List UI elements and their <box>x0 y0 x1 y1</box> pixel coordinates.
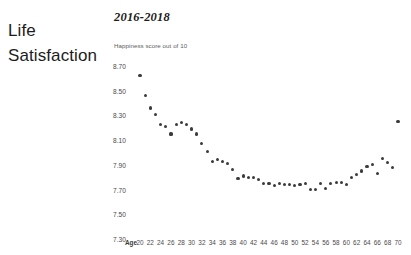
data-point <box>190 127 193 130</box>
x-axis-tick: 46 <box>271 239 278 246</box>
chart-title: 2016-2018 <box>114 10 170 25</box>
data-point <box>242 174 245 177</box>
data-point <box>211 160 214 163</box>
y-axis-label: Happiness score out of 10 <box>114 42 187 49</box>
data-point <box>144 94 147 97</box>
data-point <box>371 163 374 166</box>
data-point <box>283 183 286 186</box>
data-point <box>314 188 317 191</box>
chart-container: 2016-2018 Happiness score out of 10 8.70… <box>113 5 409 253</box>
data-point <box>169 132 172 135</box>
x-axis-label: Age <box>125 239 137 246</box>
plot-area: 8.708.508.308.107.907.707.507.30 <box>113 49 409 235</box>
data-point <box>396 120 399 123</box>
x-axis-tick: 68 <box>384 239 391 246</box>
x-axis-tick: 64 <box>363 239 370 246</box>
data-point <box>309 188 312 191</box>
data-point <box>391 166 394 169</box>
data-point <box>247 176 250 179</box>
chart-page: Life Satisfaction 2016-2018 Happiness sc… <box>0 0 411 255</box>
x-axis-tick: 52 <box>302 239 309 246</box>
x-axis-tick: 56 <box>322 239 329 246</box>
data-point <box>324 187 327 190</box>
data-point <box>273 184 276 187</box>
data-point <box>267 182 270 185</box>
data-point <box>257 178 260 181</box>
data-point <box>195 132 198 135</box>
x-axis-tick: 62 <box>353 239 360 246</box>
data-point <box>206 150 209 153</box>
data-point <box>216 158 219 161</box>
data-point <box>185 123 188 126</box>
x-axis: Age 202224262830323436384042444648505254… <box>113 239 409 251</box>
x-axis-tick: 20 <box>136 239 143 246</box>
data-point <box>262 182 265 185</box>
scatter-points-layer <box>113 49 409 235</box>
x-axis-tick: 36 <box>219 239 226 246</box>
data-point <box>252 176 255 179</box>
data-point <box>304 182 307 185</box>
data-point <box>159 123 162 126</box>
data-point <box>180 121 183 124</box>
x-axis-tick: 24 <box>157 239 164 246</box>
data-point <box>149 106 152 109</box>
data-point <box>376 172 379 175</box>
data-point <box>360 169 363 172</box>
data-point <box>138 74 141 77</box>
x-axis-tick: 30 <box>188 239 195 246</box>
x-axis-tick: 26 <box>167 239 174 246</box>
x-axis-tick: 22 <box>147 239 154 246</box>
data-point <box>278 182 281 185</box>
x-axis-tick: 48 <box>281 239 288 246</box>
data-point <box>355 173 358 176</box>
page-title: Life Satisfaction <box>8 18 108 68</box>
data-point <box>335 181 338 184</box>
data-point <box>386 161 389 164</box>
x-axis-tick: 54 <box>312 239 319 246</box>
x-axis-tick: 50 <box>291 239 298 246</box>
x-axis-tick: 44 <box>260 239 267 246</box>
x-axis-tick: 66 <box>374 239 381 246</box>
x-axis-tick: 70 <box>394 239 401 246</box>
x-axis-tick: 40 <box>240 239 247 246</box>
data-point <box>154 113 157 116</box>
page-title-line-1: Life <box>8 18 108 43</box>
data-point <box>365 165 368 168</box>
data-point <box>345 183 348 186</box>
data-point <box>319 182 322 185</box>
data-point <box>231 168 234 171</box>
data-point <box>288 183 291 186</box>
x-axis-tick: 34 <box>209 239 216 246</box>
data-point <box>164 125 167 128</box>
data-point <box>329 182 332 185</box>
data-point <box>200 142 203 145</box>
x-axis-tick: 32 <box>198 239 205 246</box>
data-point <box>175 123 178 126</box>
x-axis-tick: 38 <box>229 239 236 246</box>
data-point <box>340 181 343 184</box>
data-point <box>298 183 301 186</box>
x-axis-tick: 60 <box>343 239 350 246</box>
data-point <box>293 184 296 187</box>
x-axis-tick: 58 <box>332 239 339 246</box>
data-point <box>350 176 353 179</box>
data-point <box>226 162 229 165</box>
x-axis-tick: 42 <box>250 239 257 246</box>
data-point <box>221 160 224 163</box>
data-point <box>381 157 384 160</box>
data-point <box>236 177 239 180</box>
page-title-line-2: Satisfaction <box>8 43 108 68</box>
x-axis-tick: 28 <box>178 239 185 246</box>
